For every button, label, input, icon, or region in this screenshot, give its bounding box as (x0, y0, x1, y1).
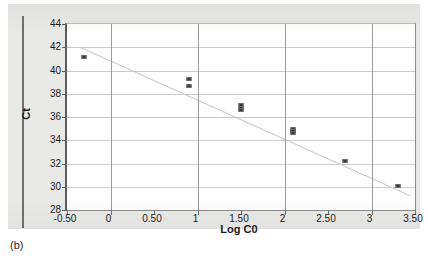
gridline-vertical (198, 24, 199, 210)
gridline-vertical (111, 24, 112, 210)
y-axis-tick-label: 40 (35, 64, 61, 75)
gridline-horizontal (67, 71, 415, 72)
y-axis-tick-labels: 283032343638404244 (35, 23, 61, 209)
y-axis-tick-mark (62, 24, 67, 25)
y-axis-tick-mark (62, 164, 67, 165)
figure-panel: Ct 283032343638404244 -0.5000.5011.5022.… (8, 4, 420, 229)
data-point-marker (82, 55, 87, 59)
y-axis-tick-mark (62, 140, 67, 141)
gridline-horizontal (67, 140, 415, 141)
y-axis-tick-mark (62, 187, 67, 188)
gridline-horizontal (67, 117, 415, 118)
y-axis-tick-label: 34 (35, 134, 61, 145)
y-axis-tick-mark (62, 94, 67, 95)
figure-caption: (b) (10, 239, 23, 251)
data-point-marker (186, 77, 191, 81)
gridline-horizontal (67, 187, 415, 188)
y-axis-tick-label: 36 (35, 111, 61, 122)
data-point-marker (239, 108, 244, 112)
y-axis-tick-label: 44 (35, 18, 61, 29)
data-point-marker (291, 131, 296, 135)
y-axis-tick-mark (62, 117, 67, 118)
y-axis-title: Ct (20, 94, 32, 134)
data-point-marker (395, 184, 400, 188)
x-axis-title: Log C0 (65, 223, 413, 235)
data-point-marker (343, 159, 348, 163)
plot-area (65, 23, 416, 211)
gridline-vertical (372, 24, 373, 210)
gridline-horizontal (67, 94, 415, 95)
y-axis-tick-label: 38 (35, 87, 61, 98)
plot-inner (67, 24, 415, 210)
y-axis-tick-mark (62, 47, 67, 48)
gridline-horizontal (67, 47, 415, 48)
data-point-marker (186, 84, 191, 88)
y-axis-tick-mark (62, 71, 67, 72)
gridline-horizontal (67, 164, 415, 165)
y-axis-tick-label: 32 (35, 157, 61, 168)
gridline-vertical (285, 24, 286, 210)
y-axis-tick-label: 42 (35, 41, 61, 52)
y-axis-tick-label: 30 (35, 180, 61, 191)
